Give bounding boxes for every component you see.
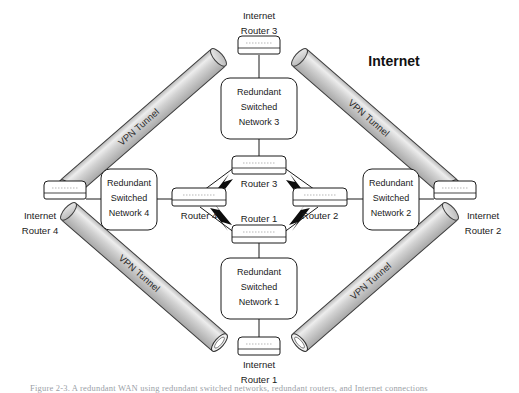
figure-caption: Figure 2-3. A redundant WAN using redund… xyxy=(30,383,428,393)
diagram-canvas: VPN Tunnel VPN Tunnel VPN Tunnel VPN T xyxy=(0,0,519,393)
router-1[interactable]: Router 1 xyxy=(232,213,286,243)
internet-router-label-line1: Internet xyxy=(24,210,57,221)
internet-area-label: Internet xyxy=(368,53,420,69)
router-body xyxy=(232,156,286,174)
router-body xyxy=(238,36,280,54)
router-body xyxy=(232,225,286,243)
router-body xyxy=(238,337,280,355)
rsn-label-line3: Network 2 xyxy=(371,208,412,218)
rsn-label-line3: Network 1 xyxy=(239,297,280,307)
router-label: Router 3 xyxy=(241,178,277,189)
router-body xyxy=(434,181,476,199)
router-2[interactable]: Router 2 xyxy=(293,188,347,221)
internet-router-3[interactable]: Internet Router 3 xyxy=(238,10,280,54)
router-3[interactable]: Router 3 xyxy=(232,156,286,189)
internet-router-1[interactable]: Internet Router 1 xyxy=(238,337,280,385)
rsn-label-line3: Network 3 xyxy=(239,117,280,127)
router-body xyxy=(293,188,347,206)
rsn-label-line2: Switched xyxy=(241,102,278,112)
network-topology-diagram: VPN Tunnel VPN Tunnel VPN Tunnel VPN T xyxy=(0,0,519,393)
router-body xyxy=(44,181,86,199)
internet-router-label-line1: Internet xyxy=(467,210,500,221)
rsn-label-line1: Redundant xyxy=(369,178,414,188)
router-label: Router 4 xyxy=(181,210,217,221)
rsn-label-line1: Redundant xyxy=(107,178,152,188)
router-body xyxy=(172,188,226,206)
rsn-label-line2: Switched xyxy=(241,282,278,292)
router-label: Router 2 xyxy=(302,210,338,221)
rsn-2[interactable]: Redundant Switched Network 2 xyxy=(363,169,419,230)
internet-router-label-line1: Internet xyxy=(243,359,276,370)
internet-router-label-line2: Router 3 xyxy=(241,25,277,36)
rsn-label-line3: Network 4 xyxy=(109,208,150,218)
rsn-label-line2: Switched xyxy=(111,193,148,203)
rsn-4[interactable]: Redundant Switched Network 4 xyxy=(101,169,157,230)
router-label: Router 1 xyxy=(241,213,277,224)
internet-router-label-line2: Router 2 xyxy=(465,225,501,236)
rsn-label-line1: Redundant xyxy=(237,267,282,277)
rsn-label-line2: Switched xyxy=(373,193,410,203)
rsn-3[interactable]: Redundant Switched Network 3 xyxy=(221,78,297,139)
internet-router-label-line2: Router 4 xyxy=(22,225,58,236)
internet-router-label-line1: Internet xyxy=(243,10,276,21)
rsn-1[interactable]: Redundant Switched Network 1 xyxy=(221,258,297,319)
rsn-label-line1: Redundant xyxy=(237,87,282,97)
